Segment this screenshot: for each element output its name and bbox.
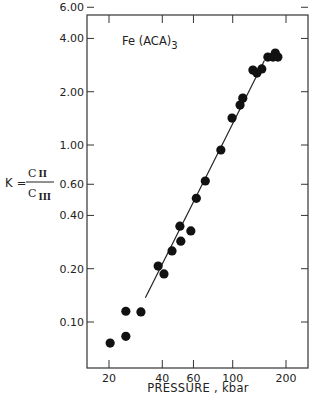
data-point [175, 222, 184, 231]
data-points [106, 48, 283, 347]
data-point [273, 52, 282, 61]
y-axis-ticks: 6.004.002.001.000.600.400.200.10 [60, 1, 309, 329]
x-tick-label: 20 [102, 372, 116, 385]
data-point [106, 338, 115, 347]
data-point [176, 237, 185, 246]
x-tick-label: 200 [276, 372, 297, 385]
y-tick-label: 0.40 [60, 209, 85, 222]
data-point [192, 194, 201, 203]
y-tick-label: 0.10 [60, 316, 85, 329]
data-point [238, 94, 247, 103]
y-label-numerator: CII [28, 167, 47, 180]
data-point [121, 307, 130, 316]
y-tick-label: 0.20 [60, 263, 85, 276]
data-point [167, 246, 176, 255]
y-tick-label: 1.00 [60, 139, 85, 152]
y-tick-label: 0.60 [60, 178, 85, 191]
plot-border [87, 15, 308, 368]
data-point [186, 226, 195, 235]
x-axis-label: PRESSURE , kbar [147, 381, 249, 395]
data-point [121, 332, 130, 341]
y-axis-label: K = CII CIII [5, 167, 54, 202]
data-point [159, 269, 168, 278]
y-tick-label: 2.00 [60, 86, 85, 99]
chart: 204060100200 6.004.002.001.000.600.400.2… [0, 0, 315, 400]
compound-annotation: Fe (ACA)3 [122, 34, 178, 51]
data-point [216, 145, 225, 154]
data-point [136, 307, 145, 316]
y-label-denominator: CIII [28, 187, 51, 202]
data-point [257, 64, 266, 73]
y-tick-label: 4.00 [60, 32, 85, 45]
y-label-k: K = [5, 176, 27, 190]
plot-frame [87, 15, 308, 368]
data-point [154, 261, 163, 270]
data-point [201, 176, 210, 185]
data-point [227, 113, 236, 122]
y-tick-label: 6.00 [60, 1, 85, 14]
